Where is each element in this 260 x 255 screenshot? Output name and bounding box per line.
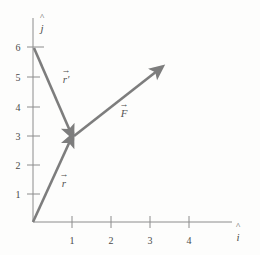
x-tick-label-1: 1 [70, 235, 75, 246]
j-unit-vector-label: j [38, 22, 43, 34]
vector-r-prime-shaft [34, 48, 70, 131]
vector-F: → F [74, 71, 157, 136]
y-tick-label-6: 6 [16, 42, 21, 53]
x-axis-unit-vector-label: ^ i [236, 221, 241, 243]
diagram-canvas: 1 2 3 4 1 2 3 4 5 6 ^ j ^ i [0, 0, 260, 255]
axis-lines [33, 18, 232, 222]
vector-F-shaft [74, 71, 157, 136]
x-tick-label-3: 3 [148, 235, 153, 246]
y-axis-ticks [27, 47, 44, 194]
y-tick-label-2: 2 [16, 160, 21, 171]
y-tick-label-1: 1 [16, 189, 21, 200]
y-tick-label-5: 5 [16, 72, 21, 83]
vector-r-prime: → r′ [34, 48, 71, 131]
vector-r-prime-label: r′ [63, 73, 70, 85]
x-tick-label-2: 2 [109, 235, 114, 246]
x-axis-tick-labels: 1 2 3 4 [70, 235, 192, 246]
y-axis-tick-labels: 1 2 3 4 5 6 [16, 42, 21, 200]
y-tick-label-3: 3 [16, 131, 21, 142]
i-hat-caret-icon: ^ [236, 221, 241, 231]
vector-r: → r [33, 141, 70, 222]
y-tick-label-4: 4 [16, 102, 21, 113]
i-unit-vector-label: i [236, 231, 239, 243]
vector-diagram-figure: 1 2 3 4 1 2 3 4 5 6 ^ j ^ i [0, 0, 260, 255]
vector-F-label: F [120, 107, 128, 119]
y-axis-unit-vector-label: ^ j [38, 12, 44, 34]
vector-r-label: r [62, 177, 67, 189]
x-tick-label-4: 4 [187, 235, 192, 246]
j-hat-caret-icon: ^ [40, 12, 45, 22]
